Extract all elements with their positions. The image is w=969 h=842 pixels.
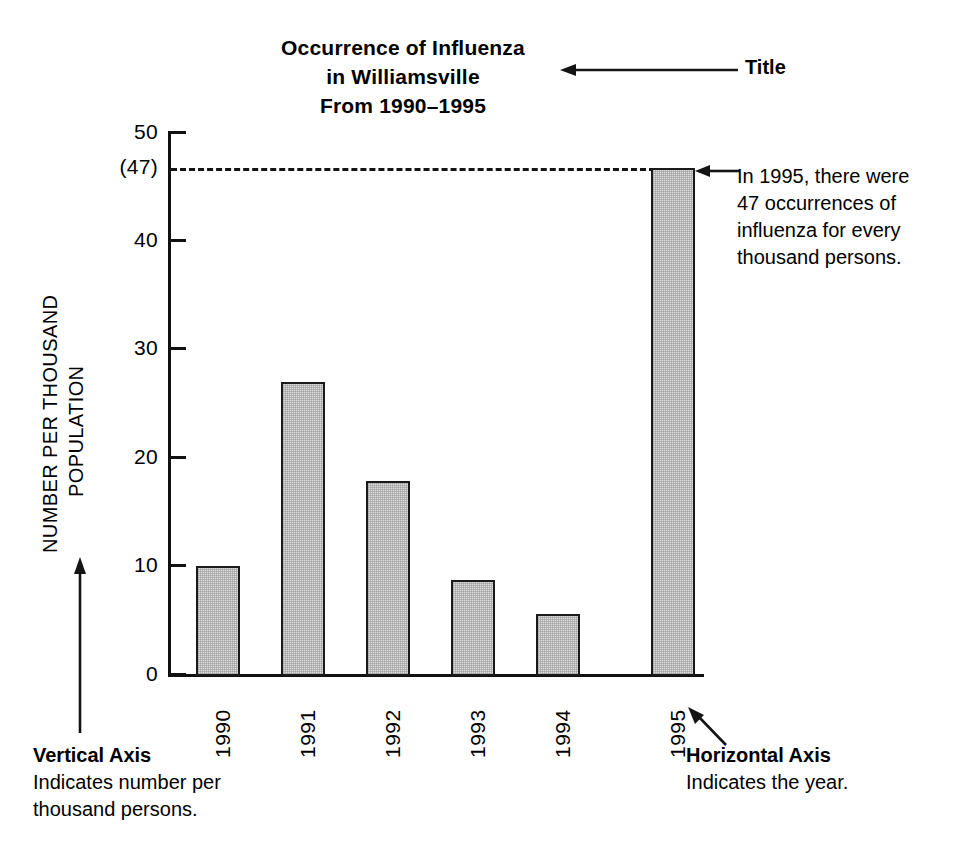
y-tick-label-30: 30 <box>88 336 158 360</box>
bar-1992 <box>366 481 410 676</box>
x-tick-label-1991: 1991 <box>296 709 320 758</box>
x-tick-label-1994: 1994 <box>551 709 575 758</box>
reference-line-47 <box>171 168 655 171</box>
y-axis-title-line-2: POPULATION <box>64 366 89 497</box>
vertical-axis-annotation-heading: Vertical Axis <box>33 742 283 769</box>
y-tick-mark-20 <box>171 456 186 459</box>
bar-1993 <box>451 580 495 676</box>
value-callout-annotation: In 1995, there were 47 occurrences of in… <box>737 163 952 271</box>
y-tick-mark-50 <box>171 131 186 134</box>
horizontal-axis-annotation: Horizontal Axis Indicates the year. <box>686 742 946 796</box>
chart-title: Occurrence of Influenza in Williamsville… <box>258 33 548 120</box>
y-tick-label-47: (47) <box>78 155 158 179</box>
vertical-axis-annotation: Vertical Axis Indicates number per thous… <box>33 742 283 823</box>
value-callout-line-2: 47 occurrences of <box>737 190 952 217</box>
value-callout-line-4: thousand persons. <box>737 244 952 271</box>
horizontal-axis-annotation-line-1: Indicates the year. <box>686 769 946 796</box>
chart-title-line-1: Occurrence of Influenza <box>258 33 548 62</box>
y-tick-mark-30 <box>171 347 186 350</box>
vertical-axis-annotation-line-1: Indicates number per <box>33 769 283 796</box>
title-callout-arrow-icon <box>560 62 740 78</box>
chart-title-line-3: From 1990–1995 <box>258 91 548 120</box>
y-tick-label-0: 0 <box>88 662 158 686</box>
vertical-axis-annotation-line-2: thousand persons. <box>33 796 283 823</box>
y-tick-label-20: 20 <box>88 445 158 469</box>
y-axis-title-line-1: NUMBER PER THOUSAND <box>39 295 61 553</box>
horizontal-axis-annotation-heading: Horizontal Axis <box>686 742 946 769</box>
value-callout-line-3: influenza for every <box>737 217 952 244</box>
y-tick-label-50: 50 <box>88 120 158 144</box>
bar-1991 <box>281 382 325 676</box>
x-axis-line <box>168 674 704 677</box>
y-tick-label-10: 10 <box>88 553 158 577</box>
bar-1994 <box>536 614 580 676</box>
x-tick-label-1993: 1993 <box>466 709 490 758</box>
vertical-axis-callout-arrow-icon <box>70 557 90 735</box>
value-callout-arrow-icon <box>695 163 741 179</box>
value-callout-line-1: In 1995, there were <box>737 163 952 190</box>
y-tick-label-40: 40 <box>88 228 158 252</box>
bar-1995 <box>651 168 695 676</box>
chart-title-line-2: in Williamsville <box>258 62 548 91</box>
y-axis-title: NUMBER PER THOUSAND POPULATION <box>38 295 63 553</box>
y-tick-mark-40 <box>171 239 186 242</box>
title-callout-label: Title <box>745 56 786 79</box>
y-axis-line <box>168 131 171 677</box>
x-tick-label-1992: 1992 <box>381 709 405 758</box>
bar-chart-figure: Occurrence of Influenza in Williamsville… <box>0 0 969 842</box>
bar-1990 <box>196 566 240 676</box>
y-tick-mark-0 <box>171 673 186 676</box>
y-tick-mark-10 <box>171 564 186 567</box>
